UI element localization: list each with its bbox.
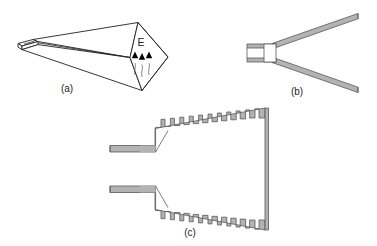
caption-b: (b) <box>291 86 303 97</box>
upper-taper-joint-c <box>140 146 156 153</box>
lower-taper-joint-c <box>140 186 156 193</box>
aperture-edge-band-c <box>265 108 269 230</box>
caption-c: (c) <box>184 227 196 238</box>
throat-transition-block-b <box>264 44 276 62</box>
caption-a: (a) <box>61 83 73 94</box>
e-field-label: E <box>137 36 144 48</box>
horn-antenna-figure: E (a) (b) <box>0 0 377 246</box>
